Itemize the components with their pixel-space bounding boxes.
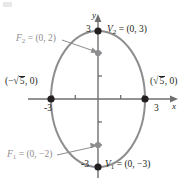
vertex-bottom-label: V1 = (0, −3)	[105, 160, 150, 171]
y-axis-label: y	[92, 11, 96, 20]
x-intercept-right-dot	[141, 95, 148, 102]
ellipse-figure: y x 3 -3 -3 3 V2 = (0, 3) V1 = (0, −3) F…	[0, 0, 191, 191]
x-intercept-left-dot	[47, 95, 54, 102]
radical-sign-icon-2: √	[153, 76, 158, 87]
x-axis-label: x	[172, 102, 176, 111]
focus-bottom-label: F1 = (0, −2)	[7, 150, 52, 161]
focus-bottom-dot	[95, 142, 101, 148]
x-intercept-right-label: (√5, 0)	[150, 76, 177, 87]
x-tick-label-neg3: -3	[44, 104, 52, 114]
ellipse-plot-svg	[0, 0, 191, 191]
vertex-top-dot	[94, 27, 101, 34]
x-intercept-right-close: , 0)	[165, 76, 178, 86]
x-tick-label-3: 3	[154, 104, 159, 114]
vertex-bottom-dot	[94, 163, 101, 170]
focus-bottom-value: = (0, −2)	[16, 149, 52, 159]
focus-top-value: = (0, 2)	[25, 33, 56, 43]
y-tick-label-3: 3	[86, 25, 91, 35]
radical-sign-icon: √	[14, 76, 19, 87]
y-tick-label-neg3: -3	[81, 160, 89, 170]
focus-top-label: F2 = (0, 2)	[16, 34, 56, 45]
focus-top-dot	[95, 50, 101, 56]
x-intercept-left-open: (−	[5, 76, 14, 86]
vertex-top-label: V2 = (0, 3)	[107, 25, 147, 36]
x-intercept-left-close: , 0)	[25, 76, 38, 86]
x-intercept-left-label: (−√5, 0)	[5, 76, 38, 87]
vertex-bottom-value: = (0, −3)	[114, 159, 150, 169]
vertex-top-value: = (0, 3)	[116, 24, 147, 34]
